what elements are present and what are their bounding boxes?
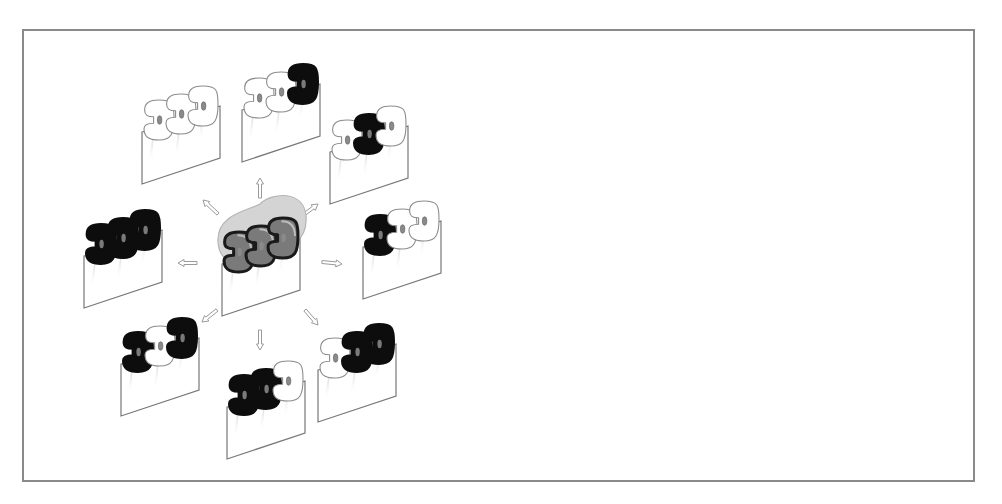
arrow-north-icon [257, 178, 264, 198]
arrow-west-icon [178, 260, 197, 267]
trimer-diagram [0, 0, 1002, 504]
arrow-east-icon [322, 260, 342, 267]
center-layer [218, 195, 306, 316]
arrow-south-east-icon [304, 309, 318, 325]
arrow-north-west-icon [203, 200, 219, 215]
unit-north-east [330, 106, 408, 204]
unit-east [363, 201, 441, 299]
unit-south-west [121, 318, 199, 416]
unit-south-east [318, 324, 396, 422]
unit-north [242, 64, 320, 162]
unit-south [227, 361, 305, 459]
unit-west [84, 210, 162, 308]
arrow-south-west-icon [202, 309, 218, 322]
arrow-south-icon [257, 330, 264, 350]
central-trimer [218, 195, 306, 316]
unit-north-west [142, 86, 220, 184]
